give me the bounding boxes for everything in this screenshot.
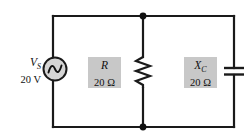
resistor-zigzag-icon <box>136 57 150 88</box>
circuit-schematic-svg <box>0 0 249 137</box>
circuit-diagram: VS 20 V R 20 Ω XC 20 Ω <box>0 0 249 137</box>
ac-source-sine-circle-icon <box>44 58 67 81</box>
junction-dot-top <box>140 13 147 20</box>
junction-dot-bottom <box>140 124 147 131</box>
capacitor-plates-icon <box>224 68 244 75</box>
